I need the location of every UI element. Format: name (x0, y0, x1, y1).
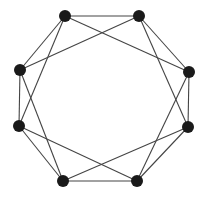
node-A (59, 10, 71, 22)
graph-svg (0, 0, 207, 199)
node-H (14, 64, 26, 76)
edge-C-E (137, 72, 189, 181)
edge-H-A (20, 16, 65, 70)
node-D (182, 121, 194, 133)
node-G (13, 120, 25, 132)
node-C (183, 66, 195, 78)
edge-F-G (19, 126, 63, 181)
edge-B-D (139, 16, 188, 127)
edge-E-G (19, 126, 137, 181)
node-F (57, 175, 69, 187)
node-E (131, 175, 143, 187)
edge-D-F (63, 127, 188, 181)
edge-F-H (20, 70, 63, 181)
edge-layer (19, 16, 189, 181)
edge-A-C (65, 16, 189, 72)
graph-diagram (0, 0, 207, 199)
edge-B-C (139, 16, 189, 72)
node-layer (13, 10, 195, 187)
edge-C-D (188, 72, 189, 127)
edge-D-E (137, 127, 188, 181)
edge-G-H (19, 70, 20, 126)
node-B (133, 10, 145, 22)
edge-H-B (20, 16, 139, 70)
